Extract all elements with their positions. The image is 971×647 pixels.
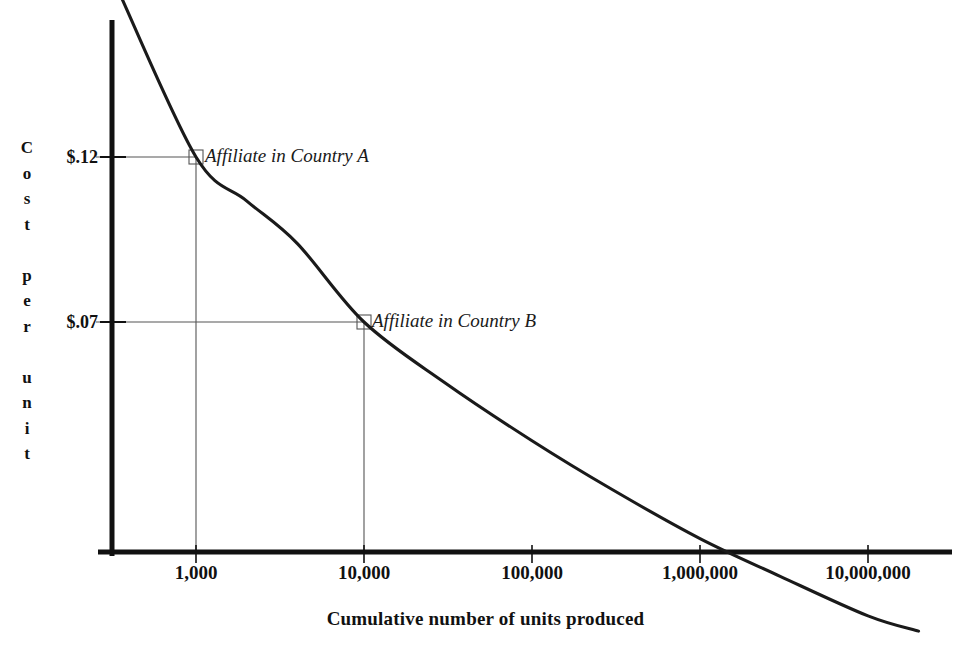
y-axis-title-letter: i: [14, 416, 40, 442]
x-tick-label-10000: 10,000: [338, 562, 390, 584]
annotation-country-b: Affiliate in Country B: [372, 310, 536, 332]
y-tick-label-007: $.07: [50, 312, 98, 333]
y-axis-title-letter: C: [14, 135, 40, 161]
x-tick-label-10000000: 10,000,000: [825, 562, 911, 584]
y-axis-title-gap: [14, 339, 40, 365]
y-axis-title-letter: t: [14, 441, 40, 467]
x-tick-label-1000000: 1,000,000: [662, 562, 738, 584]
y-axis-title-letter: n: [14, 390, 40, 416]
y-axis-title-letter: u: [14, 365, 40, 391]
y-axis-title-letter: o: [14, 161, 40, 187]
x-tick-label-100000: 100,000: [501, 562, 563, 584]
y-axis-title-letter: s: [14, 186, 40, 212]
y-axis-title-letter: p: [14, 263, 40, 289]
x-axis-title: Cumulative number of units produced: [0, 608, 971, 630]
y-axis-title-gap: [14, 237, 40, 263]
y-axis-title: Costperunit: [14, 135, 40, 467]
x-tick-label-1000: 1,000: [175, 562, 218, 584]
y-axis-title-letter: e: [14, 288, 40, 314]
y-axis-title-letter: t: [14, 212, 40, 238]
chart-page: Costperunit $.12 $.07 1,000 10,000 100,0…: [0, 0, 971, 647]
y-axis-title-letter: r: [14, 314, 40, 340]
y-tick-label-012: $.12: [50, 147, 98, 168]
annotation-country-a: Affiliate in Country A: [205, 145, 369, 167]
